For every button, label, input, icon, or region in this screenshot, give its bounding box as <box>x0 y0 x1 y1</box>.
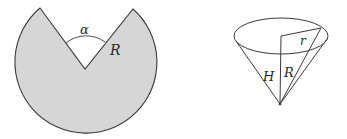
slant-label: R <box>283 65 294 80</box>
angle-label: α <box>80 22 89 37</box>
cone-apex <box>279 103 281 105</box>
radius-label-left: R <box>109 42 121 58</box>
sector-figure: α R <box>15 8 157 133</box>
diagram-canvas: α R r R H <box>0 0 347 139</box>
cone-axis <box>280 36 281 104</box>
height-label: H <box>262 69 275 84</box>
cone-figure <box>234 18 328 105</box>
base-radius-label: r <box>300 34 307 48</box>
